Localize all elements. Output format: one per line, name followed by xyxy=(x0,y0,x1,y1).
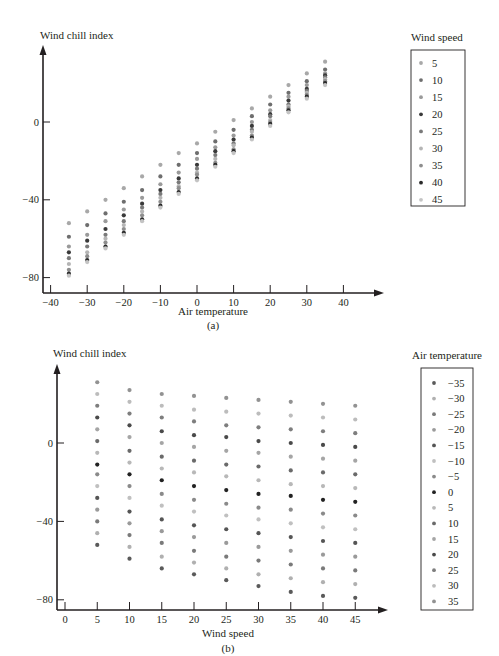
data-point xyxy=(289,576,293,580)
legend-marker-icon xyxy=(419,130,423,134)
data-point xyxy=(122,200,126,204)
data-point xyxy=(140,196,144,200)
data-point xyxy=(127,545,131,549)
y-tick-label: 0 xyxy=(48,438,53,449)
data-point xyxy=(321,457,325,461)
data-point xyxy=(213,145,217,149)
data-point xyxy=(305,83,309,87)
data-point xyxy=(289,521,293,525)
data-point xyxy=(256,451,260,455)
legend-label: −35 xyxy=(448,378,464,389)
data-point xyxy=(95,462,99,466)
data-point xyxy=(160,392,164,396)
legend-marker-icon xyxy=(432,444,436,448)
data-point xyxy=(160,441,164,445)
legend-marker-icon xyxy=(419,198,423,202)
data-point xyxy=(192,408,196,412)
data-point xyxy=(127,533,131,537)
data-point xyxy=(192,459,196,463)
data-point xyxy=(213,139,217,143)
data-point xyxy=(289,494,293,498)
data-point xyxy=(127,510,131,514)
data-point xyxy=(192,549,196,553)
data-point xyxy=(177,186,181,190)
chart-a-legend: 51015202530354045 xyxy=(419,58,442,206)
data-point xyxy=(95,496,99,500)
data-point xyxy=(224,449,228,453)
data-point xyxy=(160,466,164,470)
data-point xyxy=(140,188,144,192)
data-point xyxy=(95,404,99,408)
data-point xyxy=(67,256,71,260)
data-point xyxy=(353,431,357,435)
data-point xyxy=(321,415,325,419)
y-tick-label: −40 xyxy=(37,516,53,527)
legend-marker-icon xyxy=(432,584,436,588)
chart-b-legend-title: Air temperature xyxy=(412,349,482,361)
data-point xyxy=(286,95,290,99)
data-point xyxy=(256,506,260,510)
data-point xyxy=(85,209,89,213)
x-tick-label: 40 xyxy=(318,614,329,625)
data-point xyxy=(256,478,260,482)
data-point xyxy=(95,392,99,396)
data-point xyxy=(127,388,131,392)
x-tick-label: 15 xyxy=(157,614,168,625)
legend-marker-icon xyxy=(432,381,436,385)
data-point xyxy=(85,233,89,237)
data-point xyxy=(321,594,325,598)
legend-label: 15 xyxy=(432,92,443,103)
data-point xyxy=(286,99,290,103)
y-tick-label: 0 xyxy=(34,117,39,128)
chart-b: Wind chill index 0−40−80 051015202530354… xyxy=(37,347,482,655)
x-tick-label: 45 xyxy=(350,614,361,625)
data-point xyxy=(305,97,309,101)
x-tick-label: 25 xyxy=(221,614,232,625)
data-point xyxy=(158,182,162,186)
chart-a-points xyxy=(67,60,327,278)
data-point xyxy=(353,513,357,517)
chart-a-y-ticks: 0−40−80 xyxy=(23,117,50,284)
data-point xyxy=(256,412,260,416)
data-point xyxy=(122,233,126,237)
data-point xyxy=(232,118,236,122)
data-point xyxy=(127,412,131,416)
data-point xyxy=(224,396,228,400)
data-point xyxy=(321,566,325,570)
legend-marker-icon xyxy=(432,490,436,494)
legend-label: 20 xyxy=(448,549,459,560)
chart-a-x-axis-arrow-icon xyxy=(374,290,384,297)
data-point xyxy=(158,174,162,178)
data-point xyxy=(192,445,196,449)
data-point xyxy=(232,128,236,132)
data-point xyxy=(85,223,89,227)
data-point xyxy=(160,492,164,496)
data-point xyxy=(268,108,272,112)
data-point xyxy=(224,555,228,559)
data-point xyxy=(289,482,293,486)
legend-marker-icon xyxy=(432,522,436,526)
data-point xyxy=(195,151,199,155)
legend-label: 20 xyxy=(432,109,443,120)
data-point xyxy=(224,578,228,582)
data-point xyxy=(160,478,164,482)
x-tick-label: 30 xyxy=(302,297,313,308)
data-point xyxy=(85,254,89,258)
data-point xyxy=(321,443,325,447)
data-point xyxy=(103,240,107,244)
x-tick-label: 20 xyxy=(189,614,200,625)
data-point xyxy=(224,462,228,466)
data-point xyxy=(195,163,199,167)
data-point xyxy=(95,380,99,384)
legend-label: 40 xyxy=(432,177,443,188)
legend-label: 25 xyxy=(448,565,459,576)
legend-marker-icon xyxy=(432,475,436,479)
data-point xyxy=(192,433,196,437)
data-point xyxy=(67,235,71,239)
data-point xyxy=(353,541,357,545)
data-point xyxy=(321,525,325,529)
chart-a: Wind chill index 0−40−80 −40−30−20−10010… xyxy=(23,29,465,332)
data-point xyxy=(177,163,181,167)
data-point xyxy=(85,244,89,248)
chart-a-x-axis-label: Air temperature xyxy=(178,305,248,317)
